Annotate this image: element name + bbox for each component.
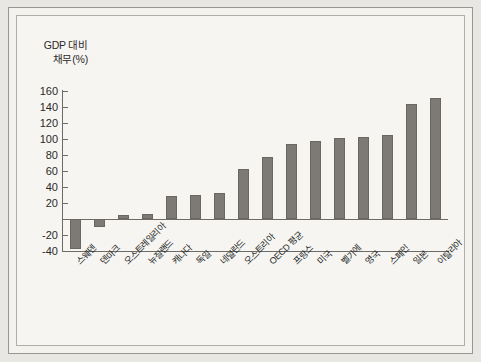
y-tick-label: 160 [40, 85, 58, 97]
y-tick-label: 100 [40, 133, 58, 145]
bar [166, 196, 177, 219]
bar [310, 141, 321, 219]
bar [358, 137, 369, 219]
bar [94, 219, 105, 227]
y-tick-label: -20 [42, 229, 58, 241]
y-tick-label: 140 [40, 101, 58, 113]
bar [382, 135, 393, 219]
chart-figure: GDP 대비 채무(%) 16014012010080604020-20-40 … [0, 0, 481, 362]
bar [142, 214, 153, 219]
bar [334, 138, 345, 219]
y-tick-label: 40 [46, 181, 58, 193]
bar [70, 219, 81, 249]
bar [406, 104, 417, 219]
plot-area [63, 91, 448, 251]
y-tick-label: 120 [40, 117, 58, 129]
bar [286, 144, 297, 219]
y-tick-mark [63, 251, 68, 252]
bar [214, 193, 225, 219]
y-axis-tick-labels: 16014012010080604020-20-40 [0, 0, 58, 362]
y-tick-label: 80 [46, 149, 58, 161]
bar [262, 157, 273, 219]
bar [430, 98, 441, 219]
bar [238, 169, 249, 219]
bar [190, 195, 201, 219]
y-tick-label: -40 [42, 245, 58, 257]
y-tick-label: 20 [46, 197, 58, 209]
y-tick-label: 60 [46, 165, 58, 177]
bar [118, 215, 129, 219]
